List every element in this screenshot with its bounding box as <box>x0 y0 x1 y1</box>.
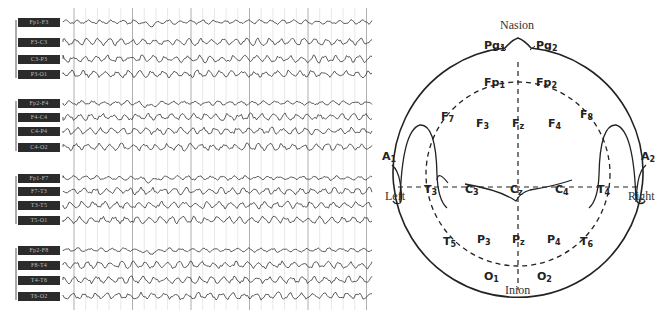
channel-label: T3-T5 <box>18 201 60 210</box>
channel-label: F4-C4 <box>18 113 60 122</box>
channel-label: C4-P4 <box>18 127 60 136</box>
head-diagram: Nasion Inion Left Right Pg1Pg2Fp1Fp2F7F3… <box>360 0 672 317</box>
channel-label: F8-T4 <box>18 261 60 270</box>
electrode-fz: Fz <box>512 117 525 131</box>
landmark-right: Right <box>628 189 655 203</box>
electrode-pg1: Pg1 <box>484 39 506 53</box>
electrode-o1: O1 <box>484 270 499 284</box>
electrode-fp2: Fp2 <box>536 76 557 90</box>
channel-label: T5-O1 <box>18 216 60 225</box>
channel-label: F7-T3 <box>18 187 60 196</box>
electrode-placement-diagram: Nasion Inion Left Right Pg1Pg2Fp1Fp2F7F3… <box>360 0 672 317</box>
channel-label: Fp1-F7 <box>18 174 60 183</box>
left-sylvian-curve <box>437 176 448 183</box>
electrode-pg2: Pg2 <box>536 39 558 53</box>
electrode-f4: F4 <box>548 117 562 131</box>
electrode-cz: Cz <box>510 183 523 197</box>
electrode-o2: O2 <box>537 270 552 284</box>
channel-label: C3-P3 <box>18 55 60 64</box>
electrode-t6: T6 <box>580 235 594 249</box>
electrode-t5: T5 <box>443 235 457 249</box>
electrode-p3: P3 <box>477 233 491 247</box>
channel-label: P3-O1 <box>18 70 60 79</box>
electrode-a2: A2 <box>641 150 655 164</box>
electrode-pz: Pz <box>512 233 525 247</box>
channel-label: Fp2-F8 <box>18 246 60 255</box>
electrode-c4: C4 <box>555 183 569 197</box>
electrode-c3: C3 <box>465 183 479 197</box>
electrode-fp1: Fp1 <box>484 76 505 90</box>
head-outline <box>393 38 643 297</box>
channel-label: T6-O2 <box>18 292 60 301</box>
electrode-f3: F3 <box>476 117 489 131</box>
electrode-t4: T4 <box>597 183 611 197</box>
landmark-nasion: Nasion <box>500 18 534 32</box>
electrode-f8: F8 <box>580 108 594 122</box>
channel-label: F3-C3 <box>18 38 60 47</box>
channel-label: T4-T6 <box>18 276 60 285</box>
channel-label: Fp1-F3 <box>18 18 60 27</box>
electrode-t3: T3 <box>424 183 437 197</box>
channel-label: C4-O2 <box>18 143 60 152</box>
electrode-f7: F7 <box>441 110 454 124</box>
electrode-p4: P4 <box>547 233 561 247</box>
channel-label: Fp2-F4 <box>18 99 60 108</box>
eeg-trace-panel: Fp1-F3F3-C3C3-P3P3-O1Fp2-F4F4-C4C4-P4C4-… <box>0 0 380 317</box>
landmark-left: Left <box>385 189 406 203</box>
landmark-inion: Inion <box>505 283 530 297</box>
